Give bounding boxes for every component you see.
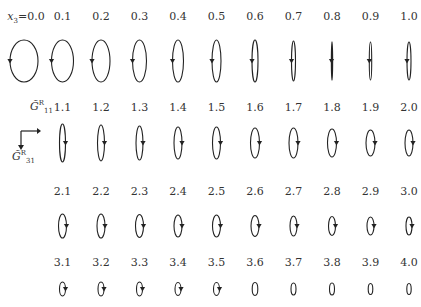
value-label: 1.3 <box>131 101 149 114</box>
value-label: 1.1 <box>54 101 72 114</box>
value-label: 3.2 <box>92 256 110 269</box>
trajectory-ellipse <box>174 127 185 159</box>
direction-arrow-icon <box>89 59 94 64</box>
trajectory-ellipse <box>290 216 300 236</box>
direction-arrow-icon <box>179 224 184 229</box>
value-label: 3.1 <box>54 256 72 269</box>
trajectory-ellipse <box>209 40 221 82</box>
value-label: 0.5 <box>208 10 226 23</box>
trajectory-ellipse <box>60 282 69 296</box>
trajectory-ellipse <box>170 40 184 82</box>
trajectory-ellipse <box>406 217 415 235</box>
direction-arrow-icon <box>334 141 339 146</box>
trajectory-ellipse <box>175 283 184 296</box>
axis-g11-sub: 11 <box>44 107 53 115</box>
direction-arrow-icon <box>289 59 294 64</box>
trajectory-ellipse <box>60 124 69 162</box>
value-label: 0.4 <box>169 10 187 23</box>
trajectory-ellipse <box>98 282 107 296</box>
direction-arrow-icon <box>101 287 106 292</box>
direction-arrow-icon <box>209 59 214 64</box>
value-label: 4.0 <box>400 256 418 269</box>
direction-arrow-icon <box>140 287 145 292</box>
trajectory-ellipse <box>328 129 340 157</box>
trajectory-ellipse <box>49 40 74 82</box>
value-label: 1.5 <box>208 101 226 114</box>
direction-arrow-icon <box>371 224 376 229</box>
value-label: 1.2 <box>92 101 110 114</box>
value-label: 2.7 <box>285 185 303 198</box>
value-label: 1.4 <box>169 101 187 114</box>
direction-arrow-icon <box>333 224 338 229</box>
direction-arrow-icon <box>7 59 12 64</box>
trajectory-ellipse <box>252 283 258 296</box>
direction-arrow-icon <box>295 141 300 146</box>
direction-arrow-icon <box>102 141 107 146</box>
trajectory-ellipse <box>98 125 108 161</box>
value-label: 1.7 <box>285 101 303 114</box>
value-label: 0.6 <box>246 10 264 23</box>
direction-arrow-icon <box>63 287 68 292</box>
trajectory-ellipse <box>407 284 411 295</box>
trajectory-ellipse <box>97 214 108 238</box>
trajectory-ellipse <box>289 128 301 158</box>
value-label: 3.6 <box>246 256 264 269</box>
trajectory-ellipse <box>214 283 223 296</box>
trajectory-ellipse <box>7 40 38 82</box>
direction-arrow-icon <box>367 59 372 64</box>
value-label: 1.6 <box>246 101 264 114</box>
direction-arrow-icon <box>257 141 262 146</box>
axis-label-g31: G̃R31 <box>12 149 35 165</box>
trajectory-ellipse <box>137 282 146 296</box>
direction-arrow-icon <box>404 59 409 64</box>
direction-arrow-icon <box>256 224 261 229</box>
direction-arrow-icon <box>49 59 54 64</box>
direction-arrow-icon <box>179 141 184 146</box>
trajectory-ellipse <box>289 41 296 81</box>
ellipse-grid-figure: x3=0.00.10.20.30.40.50.60.70.80.91.01.11… <box>0 0 421 307</box>
value-label: 3.9 <box>362 256 380 269</box>
value-label: 0.9 <box>362 10 380 23</box>
axis-g11-symbol: G̃ <box>30 100 39 113</box>
direction-arrow-icon <box>249 59 254 64</box>
value-label: 0.7 <box>285 10 303 23</box>
direction-arrow-icon <box>410 141 415 146</box>
trajectory-ellipse <box>330 283 335 295</box>
axis-g31-sub: 31 <box>26 157 35 165</box>
trajectory-ellipse <box>174 215 185 237</box>
trajectory-ellipse <box>366 130 378 156</box>
direction-arrow-icon <box>218 224 223 229</box>
trajectory-ellipse <box>367 42 372 80</box>
axis-g11-sup: R <box>39 99 44 107</box>
direction-arrow-icon <box>329 59 334 64</box>
value-label: 3.3 <box>131 256 149 269</box>
trajectory-ellipse <box>405 130 416 156</box>
trajectory-ellipse <box>136 126 146 160</box>
value-label: 2.6 <box>246 185 264 198</box>
trajectory-ellipse <box>404 42 411 80</box>
value-label: 3.7 <box>285 256 303 269</box>
value-label: 1.9 <box>362 101 380 114</box>
trajectory-ellipse <box>136 215 147 238</box>
direction-arrow-icon <box>372 141 377 146</box>
trajectory-ellipse <box>367 217 377 235</box>
direction-arrow-icon <box>130 59 135 64</box>
direction-arrow-icon <box>178 287 183 292</box>
value-label: 0.3 <box>131 10 149 23</box>
value-label: 2.9 <box>362 185 380 198</box>
trajectory-ellipse <box>251 128 263 158</box>
trajectory-ellipse <box>291 283 296 295</box>
trajectory-ellipse <box>368 284 373 295</box>
axis-g31-sup: R <box>21 149 26 157</box>
value-label: 2.0 <box>400 101 418 114</box>
direction-arrow-icon <box>294 224 299 229</box>
direction-arrow-icon <box>63 141 68 146</box>
trajectory-ellipse <box>329 217 339 236</box>
direction-arrow-icon <box>217 287 222 292</box>
value-label: 2.3 <box>131 185 149 198</box>
direction-arrow-icon <box>170 59 175 64</box>
value-label: 0.2 <box>92 10 110 23</box>
axis-g31-symbol: G̃ <box>12 150 21 163</box>
trajectory-ellipse <box>251 216 262 237</box>
axis-label-g11: G̃R11 <box>30 99 53 115</box>
